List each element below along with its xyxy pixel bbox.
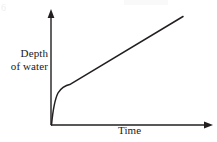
y-axis-arrow-icon [48,9,55,18]
y-axis-label: Depth of water [11,47,48,72]
y-axis-label-line1: Depth [11,47,48,60]
x-axis-label: Time [118,124,141,137]
y-axis-label-line2: of water [11,60,48,73]
depth-of-water-vs-time-figure: 6 Depth of water Time [0,0,217,142]
depth-curve [52,17,184,126]
x-axis-arrow-icon [204,122,213,129]
